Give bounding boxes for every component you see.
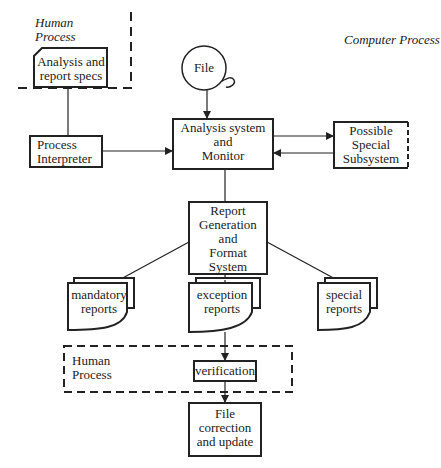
human-region-label-top: HumanProcess bbox=[35, 16, 76, 44]
edge-reportgen-special bbox=[267, 242, 339, 281]
specs-label: Analysis andreport specs bbox=[36, 55, 106, 83]
mandatory-label: mandatoryreports bbox=[68, 288, 130, 316]
file-label: File bbox=[182, 61, 226, 75]
edge-reportgen-mandatory bbox=[119, 242, 189, 280]
subsystem-label: PossibleSpecialSubsystem bbox=[334, 124, 408, 166]
human-region-label-bottom: HumanProcess bbox=[72, 354, 112, 382]
special-label: specialreports bbox=[318, 288, 370, 316]
file-correction-label: Filecorrectionand update bbox=[189, 407, 261, 449]
verification-label: verification bbox=[194, 364, 256, 378]
exception-label: exceptionreports bbox=[189, 288, 255, 316]
interpreter-label: ProcessInterpreter bbox=[37, 138, 92, 166]
report-gen-label: ReportGenerationandFormatSystem bbox=[189, 204, 267, 274]
computer-region-label: Computer Process bbox=[344, 33, 440, 47]
analysis-label: Analysis systemandMonitor bbox=[173, 121, 273, 163]
file-disk-tab bbox=[222, 78, 234, 87]
